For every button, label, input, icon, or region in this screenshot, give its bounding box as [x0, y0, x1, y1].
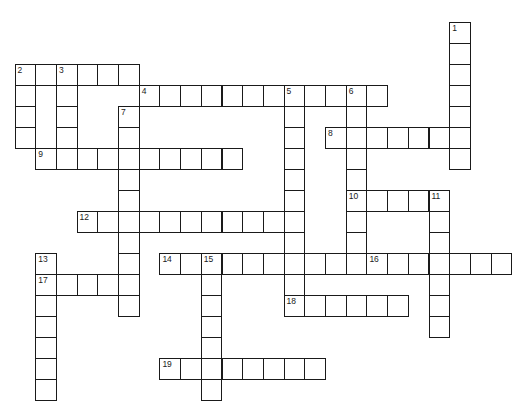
crossword-cell[interactable] — [180, 253, 202, 275]
crossword-cell[interactable] — [346, 211, 368, 233]
crossword-cell[interactable] — [35, 316, 57, 338]
crossword-cell[interactable] — [429, 274, 451, 296]
crossword-cell[interactable] — [284, 169, 306, 191]
crossword-cell[interactable] — [180, 358, 202, 380]
crossword-cell[interactable]: 3 — [56, 64, 78, 86]
crossword-cell[interactable]: 6 — [346, 85, 368, 107]
crossword-cell[interactable] — [35, 358, 57, 380]
crossword-cell[interactable] — [429, 211, 451, 233]
crossword-cell[interactable] — [15, 127, 37, 149]
crossword-cell[interactable]: 1 — [449, 22, 471, 44]
crossword-cell[interactable] — [15, 85, 37, 107]
crossword-cell[interactable] — [387, 190, 409, 212]
crossword-cell[interactable] — [118, 169, 140, 191]
crossword-cell[interactable] — [449, 106, 471, 128]
crossword-cell[interactable] — [118, 211, 140, 233]
crossword-cell[interactable] — [449, 127, 471, 149]
crossword-cell[interactable] — [118, 190, 140, 212]
crossword-cell[interactable] — [408, 190, 430, 212]
crossword-cell[interactable] — [118, 127, 140, 149]
crossword-cell[interactable] — [325, 85, 347, 107]
crossword-cell[interactable] — [159, 148, 181, 170]
crossword-cell[interactable] — [346, 148, 368, 170]
crossword-cell[interactable] — [429, 253, 451, 275]
crossword-cell[interactable] — [139, 211, 161, 233]
crossword-cell[interactable] — [346, 295, 368, 317]
crossword-cell[interactable]: 9 — [35, 148, 57, 170]
crossword-cell[interactable] — [304, 358, 326, 380]
crossword-cell[interactable]: 2 — [15, 64, 37, 86]
crossword-cell[interactable] — [346, 253, 368, 275]
crossword-cell[interactable] — [242, 211, 264, 233]
crossword-cell[interactable] — [56, 85, 78, 107]
crossword-cell[interactable] — [222, 148, 244, 170]
crossword-cell[interactable] — [97, 64, 119, 86]
crossword-cell[interactable]: 7 — [118, 106, 140, 128]
crossword-cell[interactable] — [222, 253, 244, 275]
crossword-cell[interactable] — [284, 190, 306, 212]
crossword-cell[interactable] — [201, 211, 223, 233]
crossword-cell[interactable]: 14 — [159, 253, 181, 275]
crossword-cell[interactable]: 13 — [35, 253, 57, 275]
crossword-cell[interactable] — [304, 295, 326, 317]
crossword-cell[interactable] — [470, 253, 492, 275]
crossword-cell[interactable] — [263, 85, 285, 107]
crossword-cell[interactable] — [284, 211, 306, 233]
crossword-cell[interactable] — [387, 295, 409, 317]
crossword-cell[interactable] — [118, 64, 140, 86]
crossword-cell[interactable] — [449, 253, 471, 275]
crossword-cell[interactable] — [263, 211, 285, 233]
crossword-cell[interactable] — [35, 64, 57, 86]
crossword-cell[interactable] — [201, 316, 223, 338]
crossword-cell[interactable] — [387, 253, 409, 275]
crossword-cell[interactable]: 11 — [429, 190, 451, 212]
crossword-cell[interactable] — [284, 232, 306, 254]
crossword-cell[interactable] — [366, 85, 388, 107]
crossword-cell[interactable] — [408, 127, 430, 149]
crossword-cell[interactable] — [429, 316, 451, 338]
crossword-cell[interactable] — [201, 337, 223, 359]
crossword-cell[interactable] — [222, 211, 244, 233]
crossword-cell[interactable] — [118, 148, 140, 170]
crossword-cell[interactable] — [201, 358, 223, 380]
crossword-cell[interactable] — [35, 295, 57, 317]
crossword-cell[interactable] — [97, 211, 119, 233]
crossword-cell[interactable] — [118, 295, 140, 317]
crossword-cell[interactable] — [284, 253, 306, 275]
crossword-cell[interactable]: 19 — [159, 358, 181, 380]
crossword-cell[interactable] — [180, 148, 202, 170]
crossword-cell[interactable] — [201, 379, 223, 401]
crossword-cell[interactable] — [201, 274, 223, 296]
crossword-cell[interactable] — [429, 127, 451, 149]
crossword-cell[interactable] — [304, 85, 326, 107]
crossword-cell[interactable]: 18 — [284, 295, 306, 317]
crossword-cell[interactable] — [201, 148, 223, 170]
crossword-cell[interactable]: 15 — [201, 253, 223, 275]
crossword-cell[interactable] — [159, 85, 181, 107]
crossword-cell[interactable] — [284, 358, 306, 380]
crossword-cell[interactable] — [15, 106, 37, 128]
crossword-cell[interactable] — [242, 85, 264, 107]
crossword-cell[interactable] — [159, 211, 181, 233]
crossword-cell[interactable]: 5 — [284, 85, 306, 107]
crossword-cell[interactable]: 17 — [35, 274, 57, 296]
crossword-cell[interactable] — [222, 85, 244, 107]
crossword-cell[interactable] — [449, 64, 471, 86]
crossword-cell[interactable]: 4 — [139, 85, 161, 107]
crossword-cell[interactable]: 8 — [325, 127, 347, 149]
crossword-cell[interactable] — [366, 190, 388, 212]
crossword-cell[interactable] — [77, 274, 99, 296]
crossword-cell[interactable] — [77, 64, 99, 86]
crossword-cell[interactable] — [77, 148, 99, 170]
crossword-cell[interactable] — [263, 358, 285, 380]
crossword-cell[interactable] — [284, 148, 306, 170]
crossword-cell[interactable] — [222, 358, 244, 380]
crossword-cell[interactable] — [242, 253, 264, 275]
crossword-cell[interactable] — [346, 127, 368, 149]
crossword-cell[interactable] — [346, 232, 368, 254]
crossword-cell[interactable] — [118, 253, 140, 275]
crossword-cell[interactable] — [449, 43, 471, 65]
crossword-cell[interactable] — [346, 169, 368, 191]
crossword-cell[interactable] — [284, 127, 306, 149]
crossword-cell[interactable] — [408, 253, 430, 275]
